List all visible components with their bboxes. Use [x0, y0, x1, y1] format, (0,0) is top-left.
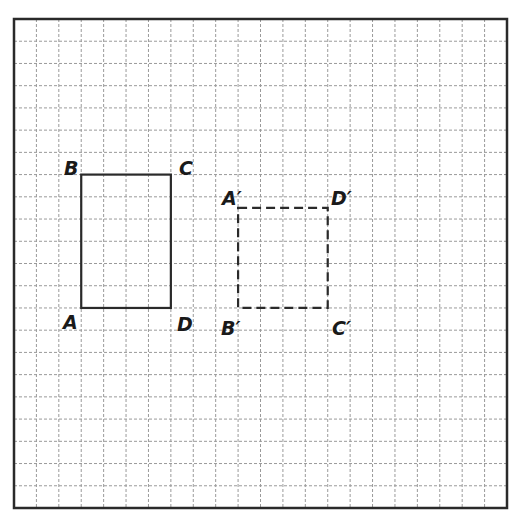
vertex-label-d: D [177, 313, 193, 335]
vertex-label-d-prime: D′ [331, 187, 352, 209]
image-rectangle-a-prime-b-prime-c-prime-d-prime [238, 208, 328, 308]
vertex-label-b-prime: B′ [221, 317, 241, 339]
vertex-label-a-prime: A′ [220, 187, 242, 209]
vertex-label-b: B [64, 157, 78, 179]
grid-lines [14, 19, 507, 508]
vertex-label-c-prime: C′ [332, 317, 351, 339]
vertex-label-a: A [61, 311, 78, 333]
vertex-label-c: C [179, 157, 193, 179]
grid-diagram: B C A D A′ D′ B′ C′ [0, 0, 518, 523]
